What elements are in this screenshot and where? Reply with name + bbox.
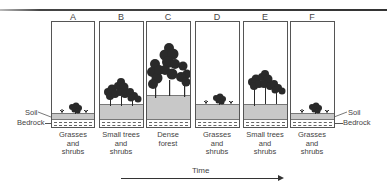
- grasses-shrubs-icon: [291, 22, 335, 128]
- caption-d: Grasses and shrubs: [192, 131, 242, 157]
- caption-f: Grasses and shrubs: [287, 131, 337, 157]
- caption-a: Grasses and shrubs: [48, 131, 98, 157]
- bedrock-leader-right: [335, 123, 343, 124]
- panel-a: [51, 21, 95, 128]
- dense-forest-icon: [147, 22, 191, 128]
- caption-c: Dense forest: [143, 131, 193, 148]
- small-trees-icon: [100, 22, 144, 128]
- time-axis-label: Time: [192, 166, 209, 175]
- arrow-right-icon: [278, 175, 284, 181]
- caption-e: Small trees and shrubs: [240, 131, 290, 157]
- caption-line: shrubs: [240, 148, 290, 157]
- caption-line: shrubs: [287, 148, 337, 157]
- grasses-shrubs-icon: [52, 22, 95, 128]
- caption-line: forest: [143, 140, 193, 149]
- soil-label-left: Soil: [25, 108, 38, 117]
- soil-label-right: Soil: [348, 108, 361, 117]
- caption-line: shrubs: [192, 148, 242, 157]
- panel-d: [195, 21, 240, 128]
- panel-f: [290, 21, 335, 128]
- panel-c: [146, 21, 191, 128]
- bedrock-label-right: Bedrock: [343, 118, 371, 127]
- small-trees-icon: [244, 22, 288, 128]
- top-rule: [0, 9, 387, 11]
- caption-line: shrubs: [48, 148, 98, 157]
- grasses-shrubs-icon: [196, 22, 240, 128]
- caption-b: Small trees and shrubs: [96, 131, 146, 157]
- panel-e: [243, 21, 288, 128]
- caption-line: shrubs: [96, 148, 146, 157]
- time-arrow-line: [121, 178, 279, 179]
- bedrock-leader-left: [45, 123, 52, 124]
- panel-b: [99, 21, 144, 128]
- bedrock-label-left: Bedrock: [17, 118, 45, 127]
